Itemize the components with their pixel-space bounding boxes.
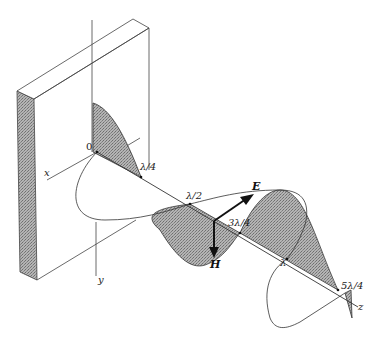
standing-wave-diagram: 0 x y z λ/4 λ/2 3λ/4 λ 5λ/4 E H [0,0,380,347]
x-axis [47,152,97,180]
magnetic-field-wave [93,103,352,318]
x-axis-label: x [44,167,50,178]
wall-top-face [17,19,149,99]
wall-side-face [17,91,37,280]
h-lobe-1 [93,103,141,177]
origin-label: 0 [86,141,92,152]
node-origin [96,151,99,154]
z-axis-label: z [357,301,364,312]
e-arrowhead [240,194,254,205]
h-vector-label: H [209,258,221,271]
node-label-lambda-half: λ/2 [185,190,202,201]
node-five-lambda-quarter [337,289,340,292]
wall-bottom-edge [37,220,136,280]
node-label-five-lambda-quarter: 5λ/4 [341,280,363,291]
node-label-three-lambda-quarter: 3λ/4 [228,217,250,228]
node-lambda-quarter [140,176,143,179]
node-lambda-half [189,203,192,206]
node-label-lambda: λ [279,257,286,268]
e-vector-label: E [251,180,261,193]
node-three-lambda-quarter [239,232,242,235]
h-lobe-4 [345,290,352,318]
z-axis [97,152,358,307]
y-axis-label: y [97,274,104,285]
h-lobe-3 [240,190,338,290]
node-label-lambda-quarter: λ/4 [139,161,156,172]
